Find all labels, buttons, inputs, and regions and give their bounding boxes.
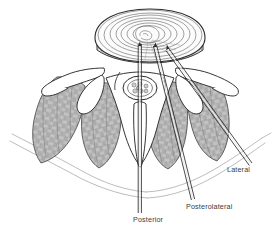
- medical-illustration-figure: Posterior Posterolateral Lateral: [0, 0, 273, 231]
- label-posterior: Posterior: [133, 216, 163, 223]
- label-lateral: Lateral: [227, 166, 250, 173]
- intervertebral-disc: [95, 9, 205, 62]
- lumbar-spine-axial-illustration: [0, 0, 273, 231]
- label-posterolateral: Posterolateral: [186, 203, 232, 210]
